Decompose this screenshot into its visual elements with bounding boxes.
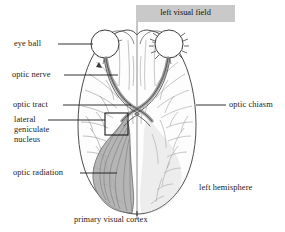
visual-pathway-figure: left visual field eye ball optic nerve o… (0, 0, 285, 232)
label-eye-ball: eye ball (14, 39, 41, 49)
label-lgn-line2: geniculate (14, 125, 49, 135)
label-lgn-line1: lateral (14, 115, 36, 125)
brain-diagram-svg (0, 0, 285, 232)
label-left-hemisphere: left hemisphere (199, 183, 252, 193)
label-optic-radiation: optic radiation (13, 168, 63, 178)
left-visual-field-label: left visual field (136, 8, 235, 17)
label-optic-tract: optic tract (13, 100, 48, 110)
label-optic-nerve: optic nerve (12, 70, 51, 80)
label-optic-chiasm: optic chiasm (229, 100, 273, 110)
label-lgn-line3: nucleus (14, 135, 40, 145)
left-eye-ball (91, 30, 119, 58)
label-primary-visual-cortex: primary visual cortex (74, 215, 148, 225)
